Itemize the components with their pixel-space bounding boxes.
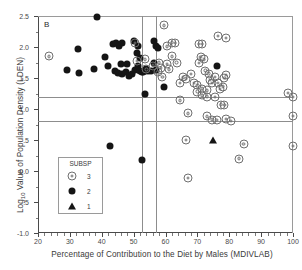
data-point-subsp-3 [198, 39, 207, 48]
x-tick-minor [280, 233, 281, 236]
horizontal-reference-line [38, 97, 293, 98]
x-tick-minor [64, 233, 65, 236]
x-tick-label: 60 [162, 238, 170, 245]
y-tick-label: .5 [23, 137, 29, 144]
plot-frame-top [38, 16, 293, 17]
y-tick: 2.0 [34, 47, 38, 48]
legend-marker-filled-triangle [68, 203, 76, 210]
y-tick-label: 2.0 [19, 44, 29, 51]
data-point-subsp-3 [202, 112, 211, 121]
x-tick [70, 233, 71, 237]
data-point-subsp-2 [90, 66, 97, 73]
x-tick-label: 70 [193, 238, 201, 245]
y-tick-label: 0.0 [19, 168, 29, 175]
x-tick-minor [121, 233, 122, 236]
legend-entry: 2 [59, 184, 102, 198]
y-tick: 1.0 [34, 109, 38, 110]
data-point-subsp-3 [234, 154, 243, 163]
legend-entry: 3 [59, 169, 102, 183]
x-tick-label: 100 [287, 238, 299, 245]
y-tick-minor [36, 94, 39, 95]
x-tick-minor [191, 233, 192, 236]
x-tick [261, 233, 262, 237]
x-tick-minor [236, 233, 237, 236]
data-point-subsp-2 [141, 90, 148, 97]
data-point-subsp-3 [183, 109, 192, 118]
x-tick-minor [89, 233, 90, 236]
x-tick-minor [255, 233, 256, 236]
x-tick-minor [185, 233, 186, 236]
data-point-subsp-2 [63, 66, 70, 73]
y-tick-minor [36, 63, 39, 64]
x-tick-minor [57, 233, 58, 236]
x-tick-label: 50 [130, 238, 138, 245]
plot-frame-right [292, 16, 293, 233]
x-tick-minor [146, 233, 147, 236]
y-tick-minor [36, 187, 39, 188]
data-point-subsp-3 [182, 136, 191, 145]
data-point-subsp-2 [160, 84, 167, 91]
x-tick-minor [83, 233, 84, 236]
data-point-subsp-3 [131, 39, 140, 48]
x-tick-label: 30 [66, 238, 74, 245]
x-tick-label: 20 [34, 238, 42, 245]
y-tick-minor [36, 125, 39, 126]
plot-area: B 2.52.01.51.0.50.0-.5-1.0 2030405060708… [38, 16, 293, 233]
x-tick-minor [76, 233, 77, 236]
data-point-subsp-2 [74, 46, 81, 53]
x-tick-minor [223, 233, 224, 236]
y-tick: 0.0 [34, 171, 38, 172]
legend-label: 2 [87, 188, 91, 195]
x-tick [38, 233, 39, 237]
data-point-subsp-3 [289, 93, 298, 102]
x-tick-minor [153, 233, 154, 236]
legend-marker-open-concentric-circle [68, 172, 77, 181]
data-point-subsp-2 [119, 40, 126, 47]
y-tick-label: 1.0 [19, 106, 29, 113]
data-point-subsp-3 [222, 33, 231, 42]
data-point-subsp-3 [164, 65, 173, 74]
data-point-subsp-3 [239, 139, 248, 148]
x-tick-minor [140, 233, 141, 236]
data-point-subsp-3 [226, 116, 235, 125]
data-point-subsp-2 [106, 143, 113, 150]
y-tick: 1.5 [34, 78, 38, 79]
y-tick-label: -.5 [21, 199, 29, 206]
data-point-subsp-3 [183, 173, 192, 182]
x-tick-minor [178, 233, 179, 236]
x-tick-minor [44, 233, 45, 236]
data-point-subsp-2 [154, 45, 161, 52]
y-tick-minor [36, 218, 39, 219]
x-tick-label: 40 [98, 238, 106, 245]
data-point-subsp-3 [171, 39, 180, 48]
legend-label: 3 [87, 173, 91, 180]
y-tick: 2.5 [34, 16, 38, 17]
x-tick [102, 233, 103, 237]
data-point-subsp-3 [289, 111, 298, 120]
horizontal-reference-line [38, 121, 293, 122]
x-tick-label: 90 [257, 238, 265, 245]
x-tick-minor [268, 233, 269, 236]
x-tick-minor [115, 233, 116, 236]
vertical-reference-line [142, 16, 143, 233]
x-tick-minor [242, 233, 243, 236]
data-point-subsp-2 [76, 70, 83, 77]
x-tick-minor [108, 233, 109, 236]
data-point-subsp-3 [172, 58, 181, 67]
x-tick-minor [159, 233, 160, 236]
y-axis-line [38, 16, 39, 233]
data-point-subsp-2 [101, 53, 108, 60]
data-point-subsp-3 [159, 21, 168, 30]
data-point-subsp-3 [220, 101, 229, 110]
data-point-subsp-1 [209, 137, 217, 144]
y-tick-label: -1.0 [17, 230, 29, 237]
legend-box: SUBSP 321 [58, 157, 103, 214]
panel-label: B [44, 20, 49, 29]
data-point-subsp-2 [93, 13, 100, 20]
x-tick-minor [127, 233, 128, 236]
x-tick [134, 233, 135, 237]
x-tick-minor [248, 233, 249, 236]
x-tick-minor [172, 233, 173, 236]
x-axis-title: Percentage of Contribution to the Diet b… [28, 250, 296, 259]
data-point-subsp-3 [155, 58, 164, 67]
